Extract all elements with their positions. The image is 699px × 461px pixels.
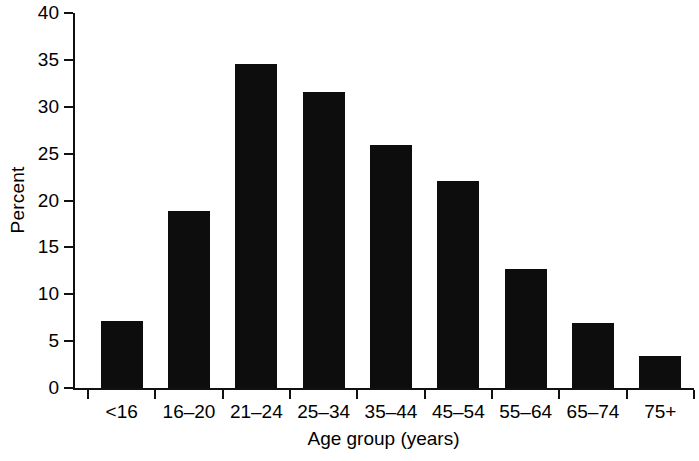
y-axis-tick-label: 35 — [38, 49, 59, 71]
x-axis-line — [73, 388, 694, 390]
bar-chart-figure: Percent 0510152025303540 <1616–2021–2425… — [0, 0, 699, 461]
y-axis-tick: 15 — [64, 246, 73, 248]
y-axis-title: Percent — [0, 0, 36, 400]
x-axis-tick — [222, 390, 224, 399]
bar — [303, 92, 345, 388]
y-axis-tick-label: 0 — [48, 377, 59, 399]
y-axis-tick-label: 5 — [48, 330, 59, 352]
y-axis-tick-label: 40 — [38, 2, 59, 24]
x-axis-tick-label: 16–20 — [163, 401, 216, 423]
y-axis-title-label: Percent — [7, 167, 29, 234]
bar — [572, 323, 614, 388]
x-axis-tick — [424, 390, 426, 399]
bar — [639, 356, 681, 388]
y-axis-tick-label: 30 — [38, 96, 59, 118]
y-axis-tick-label: 20 — [38, 190, 59, 212]
y-axis-tick: 35 — [64, 59, 73, 61]
y-axis-tick: 10 — [64, 293, 73, 295]
y-axis-line — [73, 13, 75, 390]
y-axis-tick: 20 — [64, 200, 73, 202]
x-axis-tick-label: 35–44 — [365, 401, 418, 423]
y-axis-tick: 5 — [64, 340, 73, 342]
x-axis-tick-label: 25–34 — [297, 401, 350, 423]
x-axis-tick-label: 75+ — [644, 401, 676, 423]
bar — [101, 321, 143, 389]
x-axis-title: Age group (years) — [73, 428, 694, 450]
y-axis-tick: 25 — [64, 153, 73, 155]
plot-area: 0510152025303540 <1616–2021–2425–3435–44… — [73, 13, 694, 390]
y-axis-tick: 0 — [64, 387, 73, 389]
x-axis-tick-label: 21–24 — [230, 401, 283, 423]
bar — [437, 181, 479, 388]
x-axis-tick — [626, 390, 628, 399]
x-axis-tick — [356, 390, 358, 399]
y-axis-tick: 30 — [64, 106, 73, 108]
x-axis-tick — [558, 390, 560, 399]
bar — [168, 211, 210, 388]
x-axis-tick — [289, 390, 291, 399]
y-axis-tick-label: 10 — [38, 283, 59, 305]
y-axis-tick-label: 15 — [38, 236, 59, 258]
x-axis-tick — [491, 390, 493, 399]
y-axis-tick: 40 — [64, 12, 73, 14]
x-axis-tick — [693, 390, 695, 399]
y-axis-tick-label: 25 — [38, 143, 59, 165]
x-axis-tick — [154, 390, 156, 399]
bar — [505, 269, 547, 388]
x-axis-tick-label: 45–54 — [432, 401, 485, 423]
bar — [370, 145, 412, 388]
x-axis-tick-label: 55–64 — [499, 401, 552, 423]
bar — [235, 64, 277, 388]
x-axis-tick-label: <16 — [106, 401, 138, 423]
x-axis-tick — [87, 390, 89, 399]
x-axis-tick-label: 65–74 — [567, 401, 620, 423]
